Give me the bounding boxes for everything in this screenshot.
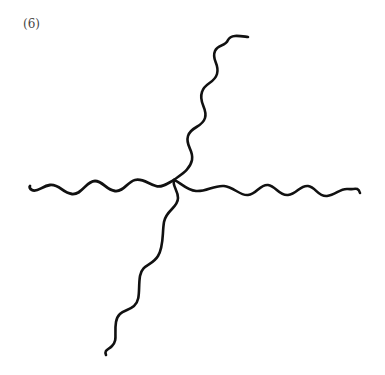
- arm-left: [30, 180, 174, 194]
- wavy-star-diagram: [0, 0, 385, 375]
- arms-group: [30, 36, 360, 355]
- arm-up: [174, 36, 248, 180]
- arm-right: [174, 180, 360, 196]
- arm-down: [105, 180, 178, 355]
